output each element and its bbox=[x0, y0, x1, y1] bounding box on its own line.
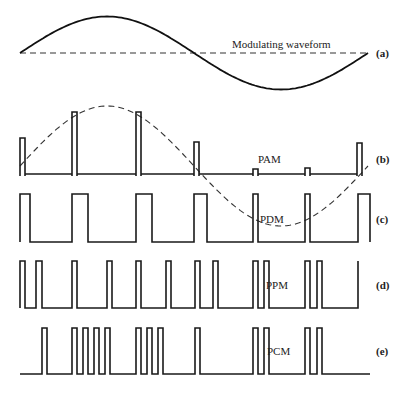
pam-pulse-train bbox=[20, 112, 362, 176]
panel-tag-a: (a) bbox=[376, 47, 389, 60]
pulse-modulation-figure: Modulating waveform (a) PAM (b) PDM (c) … bbox=[0, 0, 408, 393]
panel-tag-d: (d) bbox=[376, 279, 390, 292]
ppm-label: PPM bbox=[266, 279, 288, 291]
panel-pcm: PCM (e) bbox=[20, 328, 389, 374]
pdm-pulse-train bbox=[20, 194, 370, 242]
pcm-pulse-train bbox=[20, 328, 370, 374]
ppm-pulse-train bbox=[20, 261, 358, 308]
pdm-label: PDM bbox=[260, 213, 284, 225]
modulating-waveform-label: Modulating waveform bbox=[232, 38, 331, 50]
pam-label: PAM bbox=[258, 153, 281, 165]
panel-modulating-waveform: Modulating waveform (a) bbox=[20, 17, 389, 90]
panel-ppm: PPM (d) bbox=[20, 261, 390, 308]
panel-tag-e: (e) bbox=[376, 345, 389, 358]
panel-tag-c: (c) bbox=[376, 213, 389, 226]
panel-tag-b: (b) bbox=[376, 153, 390, 166]
panel-pam: PAM (b) bbox=[20, 106, 390, 226]
pcm-label: PCM bbox=[267, 345, 290, 357]
